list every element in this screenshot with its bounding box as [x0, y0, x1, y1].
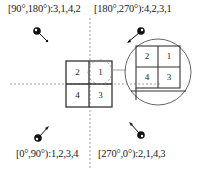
diagram-root: [90°,180°):3,1,4,2 [180°,270°):4,2,3,1 [… — [0, 0, 198, 174]
observer-q2-icon — [33, 27, 48, 42]
label-180-270: [180°,270°):4,2,3,1 — [94, 3, 172, 14]
zoomed-cell-bottom-left: 4 — [136, 72, 158, 82]
grid-cell-bottom-left: 4 — [66, 90, 89, 100]
observer-q4-icon — [129, 122, 145, 139]
grid-cell-top-right: 1 — [89, 67, 112, 77]
grid-cell-top-left: 2 — [66, 67, 89, 77]
zoomed-cell-top-right: 1 — [158, 51, 180, 61]
observer-q1-icon — [127, 27, 145, 43]
zoomed-cell-bottom-right: 3 — [158, 72, 180, 82]
zoomed-cell-top-left: 2 — [136, 51, 158, 61]
observer-q3-icon — [34, 126, 49, 142]
label-90-180: [90°,180°):3,1,4,2 — [8, 3, 80, 14]
label-270-0: [270°,0°):2,1,4,3 — [98, 148, 165, 159]
grid-cell-bottom-right: 3 — [89, 90, 112, 100]
label-0-90: [0°,90°):1,2,3,4 — [16, 148, 78, 159]
